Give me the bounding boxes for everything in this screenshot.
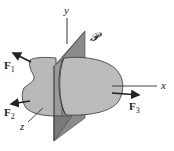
y-axis-label: y: [63, 4, 69, 16]
diagram-canvas: y 𝓟 x z F1 F2 F3: [0, 0, 174, 151]
force-f3-label: F3: [129, 100, 140, 115]
x-axis-label: x: [160, 79, 166, 91]
plane-label: 𝓟: [90, 30, 102, 44]
body-left: [22, 57, 56, 116]
force-f1-arrow: [13, 53, 31, 62]
z-axis-label: z: [19, 120, 25, 132]
force-f1-label: F1: [4, 59, 15, 74]
force-f2-label: F2: [4, 106, 15, 121]
